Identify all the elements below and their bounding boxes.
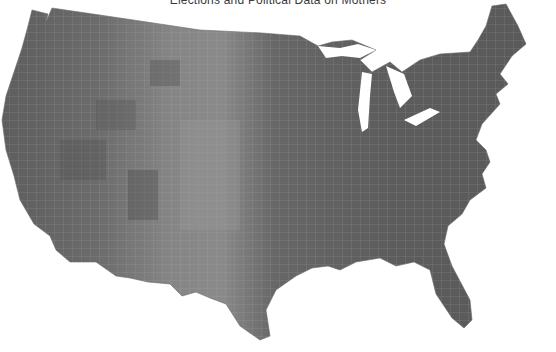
us-landmass	[0, 0, 556, 352]
us-county-map	[0, 0, 556, 352]
